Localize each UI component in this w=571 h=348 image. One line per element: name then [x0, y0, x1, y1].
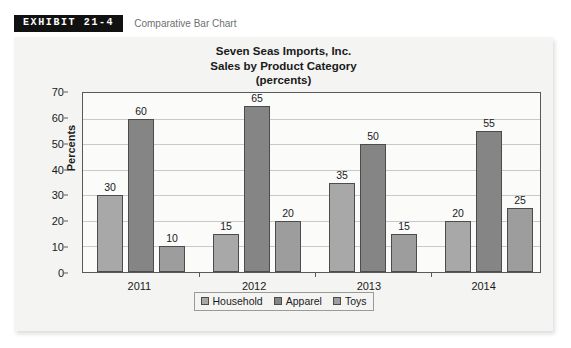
x-tick-mark: [199, 272, 200, 277]
y-tick-label: 20: [52, 215, 64, 227]
y-tick-label: 10: [52, 241, 64, 253]
y-tick-mark: [64, 247, 68, 248]
y-tick-mark: [64, 92, 68, 93]
bar-apparel-2013[interactable]: 50: [360, 144, 386, 272]
bar-group: 205525: [431, 93, 547, 272]
bar-value-label: 20: [452, 207, 464, 219]
bar-household-2012[interactable]: 15: [213, 234, 239, 272]
x-axis-label-2014: 2014: [426, 280, 541, 292]
x-axis-label-2012: 2012: [197, 280, 312, 292]
exhibit-badge: EXHIBIT 21-4: [14, 15, 123, 32]
legend-label: Apparel: [286, 295, 322, 307]
bar-household-2013[interactable]: 35: [329, 183, 355, 273]
legend-label: Household: [213, 295, 263, 307]
bar-value-label: 60: [135, 105, 147, 117]
y-tick-label: 40: [52, 164, 64, 176]
y-tick-label: 30: [52, 189, 64, 201]
legend-swatch-icon: [274, 297, 282, 305]
legend-swatch-icon: [201, 297, 209, 305]
bar-value-label: 10: [166, 232, 178, 244]
x-axis-label-2011: 2011: [82, 280, 197, 292]
y-tick-mark: [64, 273, 68, 274]
bar-apparel-2012[interactable]: 65: [244, 106, 270, 272]
bar-toys-2012[interactable]: 20: [275, 221, 301, 272]
bars-layer: 306010156520355015205525: [83, 93, 540, 272]
y-tick-mark: [64, 169, 68, 170]
bar-group: 306010: [83, 93, 199, 272]
bar-apparel-2011[interactable]: 60: [128, 119, 154, 272]
x-tick-mark: [431, 272, 432, 277]
bar-group: 355015: [315, 93, 431, 272]
figure-panel: Seven Seas Imports, Inc. Sales by Produc…: [14, 37, 553, 331]
y-tick-mark: [64, 221, 68, 222]
y-tick-mark: [64, 195, 68, 196]
bar-value-label: 15: [398, 220, 410, 232]
chart-legend: HouseholdApparelToys: [194, 292, 374, 311]
bar-group: 156520: [199, 93, 315, 272]
y-tick-label: 70: [52, 86, 64, 98]
y-tick-mark: [64, 143, 68, 144]
x-tick-mark: [315, 272, 316, 277]
bar-household-2011[interactable]: 30: [97, 195, 123, 272]
bar-value-label: 35: [336, 169, 348, 181]
bar-value-label: 15: [220, 220, 232, 232]
plot-area: 306010156520355015205525: [82, 92, 541, 273]
bar-value-label: 65: [251, 92, 263, 104]
bar-household-2014[interactable]: 20: [445, 221, 471, 272]
bar-apparel-2014[interactable]: 55: [476, 131, 502, 272]
y-tick-label: 0: [58, 267, 64, 279]
exhibit-header: EXHIBIT 21-4 Comparative Bar Chart: [14, 13, 236, 33]
x-axis-label-2013: 2013: [312, 280, 427, 292]
legend-item-toys[interactable]: Toys: [333, 295, 367, 307]
bar-value-label: 25: [514, 194, 526, 206]
legend-swatch-icon: [333, 297, 341, 305]
bar-value-label: 20: [282, 207, 294, 219]
bar-toys-2011[interactable]: 10: [159, 246, 185, 272]
bar-value-label: 50: [367, 130, 379, 142]
chart-title: Seven Seas Imports, Inc. Sales by Produc…: [14, 44, 553, 88]
legend-label: Toys: [345, 295, 367, 307]
bar-value-label: 30: [104, 181, 116, 193]
x-axis-labels: 2011201220132014: [82, 280, 541, 292]
legend-item-household[interactable]: Household: [201, 295, 263, 307]
plot-wrap: Percents 010203040506070 306010156520355…: [68, 92, 541, 273]
chart-title-line-2: Sales by Product Category: [14, 59, 553, 74]
running-head: [250, 0, 430, 9]
legend-item-apparel[interactable]: Apparel: [274, 295, 322, 307]
bar-toys-2014[interactable]: 25: [507, 208, 533, 272]
bar-value-label: 55: [483, 117, 495, 129]
y-tick-label: 50: [52, 138, 64, 150]
chart-title-line-1: Seven Seas Imports, Inc.: [14, 44, 553, 59]
y-tick-label: 60: [52, 112, 64, 124]
exhibit-caption: Comparative Bar Chart: [134, 18, 236, 29]
y-tick-mark: [64, 117, 68, 118]
bar-toys-2013[interactable]: 15: [391, 234, 417, 272]
chart-title-line-3: (percents): [14, 73, 553, 88]
